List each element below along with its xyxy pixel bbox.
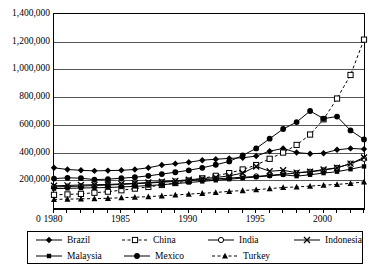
legend-marker-icon [122,250,152,262]
x-axis-origin-label: 0 [36,214,41,224]
legend-marker-icon [120,234,150,246]
y-tick-label: 1,000,000 [12,63,50,73]
legend-label: India [239,235,259,245]
series-mexico [51,108,367,182]
legend-item-india[interactable]: India [206,234,276,246]
y-tick-label: 1,200,000 [12,36,50,46]
x-tick-label: 2000 [313,214,332,224]
legend-marker-icon [34,234,64,246]
x-tick-mark [120,209,121,213]
legend-row: MalaysiaMexicoTurkey [28,248,362,264]
x-tick-mark [53,209,54,213]
x-tick-mark [242,209,243,213]
x-tick-mark [296,209,297,213]
x-axis-line [53,209,365,210]
legend-label: Turkey [243,251,270,261]
series-layer [54,14,364,208]
y-tick-label: 1,400,000 [12,8,50,18]
y-axis-tick-labels: 1,400,0001,200,0001,000,000800,000600,00… [0,0,50,215]
legend-marker-icon [206,234,236,246]
legend-item-turkey[interactable]: Turkey [210,250,282,262]
legend-label: Brazil [67,235,90,245]
legend-row: BrazilChinaIndiaIndonesia [28,232,362,248]
x-tick-label: 1980 [44,214,63,224]
y-tick-label: 400,000 [19,147,50,157]
legend-item-china[interactable]: China [120,234,190,246]
y-tick-label: 800,000 [19,91,50,101]
x-tick-mark [161,209,162,213]
x-tick-mark [188,209,189,213]
x-tick-label: 1985 [111,214,130,224]
x-tick-mark [336,209,337,213]
legend-marker-icon [292,234,322,246]
x-tick-mark [66,209,67,213]
x-tick-mark [107,209,108,213]
chart-legend: BrazilChinaIndiaIndonesiaMalaysiaMexicoT… [27,231,363,264]
legend-item-indonesia[interactable]: Indonesia [292,234,362,246]
legend-label: Indonesia [325,235,362,245]
y-tick-label: 600,000 [19,119,50,129]
legend-marker-icon [210,250,240,262]
plot-area [53,13,365,209]
x-tick-mark [309,209,310,213]
legend-marker-icon [34,250,64,262]
x-tick-mark [201,209,202,213]
legend-item-mexico[interactable]: Mexico [122,250,194,262]
x-tick-mark [363,209,364,213]
x-tick-mark [80,209,81,213]
x-tick-mark [228,209,229,213]
x-tick-mark [93,209,94,213]
x-tick-mark [174,209,175,213]
x-tick-mark [147,209,148,213]
legend-label: Mexico [155,251,184,261]
x-tick-label: 1995 [246,214,265,224]
legend-item-brazil[interactable]: Brazil [34,234,104,246]
x-tick-label: 1990 [178,214,197,224]
x-tick-mark [323,209,324,213]
series-turkey [51,179,367,202]
x-tick-mark [269,209,270,213]
x-tick-mark [215,209,216,213]
legend-label: China [153,235,176,245]
x-tick-mark [255,209,256,213]
legend-label: Malaysia [67,251,102,261]
legend-item-malaysia[interactable]: Malaysia [34,250,106,262]
x-tick-mark [282,209,283,213]
x-tick-mark [350,209,351,213]
x-tick-mark [134,209,135,213]
y-tick-label: 200,000 [19,174,50,184]
chart-figure: 1,400,0001,200,0001,000,000800,000600,00… [0,0,369,270]
